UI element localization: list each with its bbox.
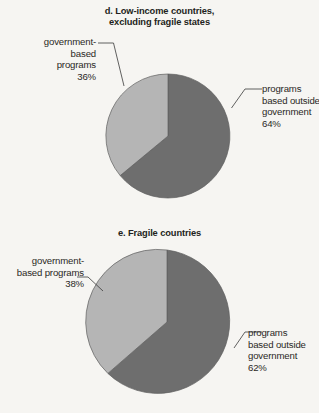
- chart-e-graphic: [0, 205, 319, 413]
- chart-d-label-government-based-programs: government- based programs 36%: [6, 36, 96, 82]
- leader-line-right-d: [232, 89, 263, 108]
- pie-chart-d: d. Low-income countries, excluding fragi…: [0, 0, 319, 210]
- leader-line-left-d: [98, 43, 124, 86]
- chart-e-label-government-based-programs: government- based programs 38%: [0, 255, 84, 290]
- pie-chart-e: e. Fragile countries government- based p…: [0, 205, 319, 413]
- chart-d-label-programs-outside-government: programs based outside government 64%: [262, 83, 319, 129]
- chart-e-label-programs-outside-government: programs based outside government 62%: [248, 327, 318, 373]
